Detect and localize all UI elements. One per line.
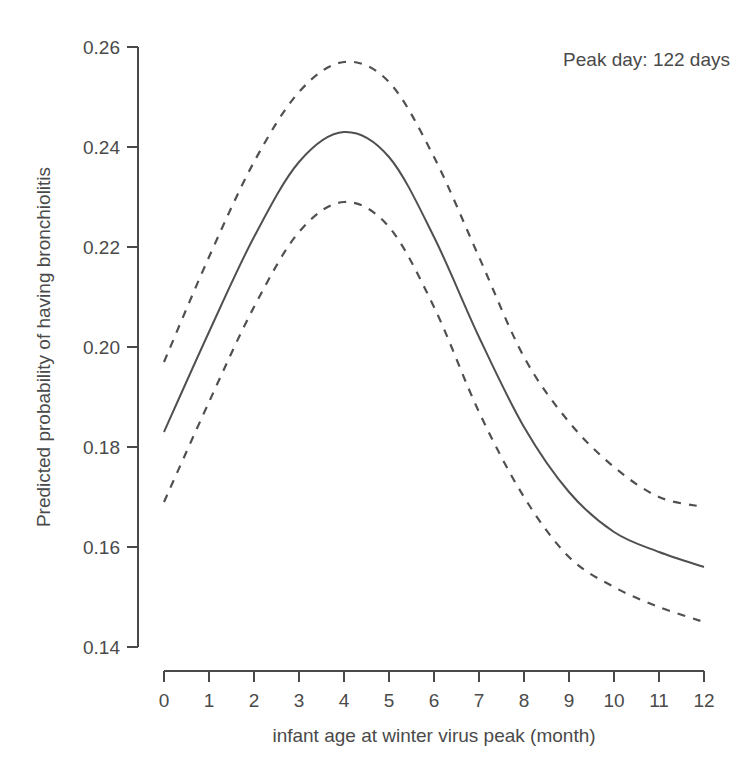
x-axis-title: infant age at winter virus peak (month) xyxy=(272,725,595,746)
x-tick-label: 3 xyxy=(294,690,305,711)
x-tick-label: 11 xyxy=(649,690,669,711)
x-tick-label: 7 xyxy=(474,690,485,711)
x-tick-label: 9 xyxy=(564,690,575,711)
x-tick-label: 10 xyxy=(603,690,624,711)
y-tick-label: 0.18 xyxy=(83,437,120,458)
lower-ci-line xyxy=(164,202,704,622)
x-tick-label: 6 xyxy=(429,690,440,711)
x-tick-label: 12 xyxy=(693,690,714,711)
predicted-probability-line xyxy=(164,132,704,567)
x-tick-label: 2 xyxy=(249,690,260,711)
y-tick-label: 0.16 xyxy=(83,537,120,558)
x-tick-label: 0 xyxy=(159,690,170,711)
y-tick-label: 0.14 xyxy=(83,637,120,658)
y-tick-label: 0.20 xyxy=(83,337,120,358)
upper-ci-line xyxy=(164,62,704,507)
y-tick-label: 0.26 xyxy=(83,37,120,58)
line-chart: 0.140.160.180.200.220.240.26 01234567891… xyxy=(0,0,756,779)
x-axis: 0123456789101112 xyxy=(159,671,715,711)
x-tick-label: 4 xyxy=(339,690,350,711)
peak-day-annotation: Peak day: 122 days xyxy=(563,49,730,70)
series-group xyxy=(164,62,704,622)
x-tick-label: 8 xyxy=(519,690,530,711)
x-tick-label: 5 xyxy=(384,690,395,711)
y-tick-label: 0.24 xyxy=(83,137,120,158)
y-axis: 0.140.160.180.200.220.240.26 xyxy=(83,37,138,658)
y-tick-label: 0.22 xyxy=(83,237,120,258)
x-tick-label: 1 xyxy=(204,690,215,711)
y-axis-title: Predicted probability of having bronchio… xyxy=(33,167,54,527)
